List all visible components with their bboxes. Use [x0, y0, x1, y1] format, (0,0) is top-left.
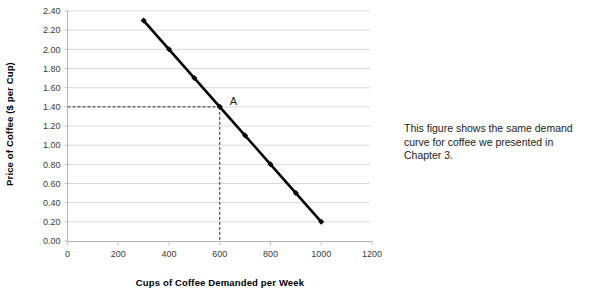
y-tick-label: 0.80 [43, 160, 61, 170]
annotation-labels: A [230, 95, 238, 107]
x-tick-label: 800 [263, 249, 278, 259]
y-tick-label: 1.00 [43, 140, 61, 150]
demand-curve-chart: 0.000.200.400.600.801.001.201.401.601.80… [0, 0, 392, 289]
y-tick-label: 1.60 [43, 83, 61, 93]
x-tick-label: 0 [65, 249, 70, 259]
y-tick-label: 1.20 [43, 121, 61, 131]
y-tick-label: 1.40 [43, 102, 61, 112]
figure-caption: This figure shows the same demand curve … [404, 122, 590, 163]
x-tick-label: 1000 [311, 249, 331, 259]
y-tick-label: 0.00 [43, 236, 61, 246]
x-tick-label: 600 [212, 249, 227, 259]
y-tick-label: 2.20 [43, 25, 61, 35]
annotation-label-a: A [230, 95, 238, 107]
y-tick-label: 2.00 [43, 45, 61, 55]
y-tick-label: 0.20 [43, 217, 61, 227]
figure-root: 0.000.200.400.600.801.001.201.401.601.80… [0, 0, 598, 289]
annotation-guide-lines [68, 107, 220, 241]
x-tick-label: 400 [161, 249, 176, 259]
gridlines-group [68, 11, 371, 222]
x-tick-label: 1200 [362, 249, 382, 259]
y-tick-label: 2.40 [43, 6, 61, 16]
y-axis-title: Price of Coffee ($ per Cup) [4, 62, 15, 186]
x-tick-group: 020040060080010001200 [65, 241, 382, 259]
x-tick-label: 200 [111, 249, 126, 259]
y-tick-label: 1.80 [43, 64, 61, 74]
y-tick-group: 0.000.200.400.600.801.001.201.401.601.80… [43, 6, 68, 246]
y-tick-label: 0.60 [43, 179, 61, 189]
chart-svg: 0.000.200.400.600.801.001.201.401.601.80… [0, 0, 392, 289]
y-tick-label: 0.40 [43, 198, 61, 208]
x-axis-title: Cups of Coffee Demanded per Week [136, 277, 304, 288]
